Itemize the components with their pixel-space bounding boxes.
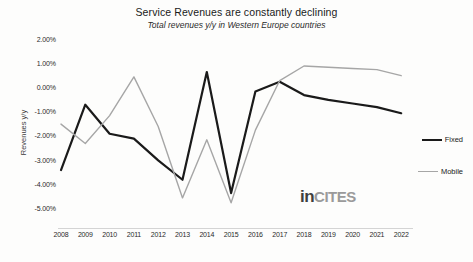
legend-label-fixed: Fixed (445, 135, 463, 144)
chart-page: Service Revenues are constantly declinin… (0, 0, 473, 262)
y-tick-5: -3.00% (14, 157, 56, 164)
watermark-part-2: CITES (314, 188, 356, 205)
legend-item-fixed[interactable]: Fixed (422, 135, 463, 144)
y-tick-4: -2.00% (14, 132, 56, 139)
y-tick-7: -5.00% (14, 205, 56, 212)
watermark-part-1: in (300, 187, 314, 206)
plot-area (0, 0, 473, 262)
series-line-fixed (61, 72, 401, 193)
chart-subtitle: Total revenues y/y in Western Europe cou… (0, 20, 473, 30)
legend-swatch-fixed-icon (422, 139, 442, 141)
y-tick-1: 1.00% (14, 60, 56, 67)
legend-label-mobile: Mobile (441, 167, 463, 176)
y-tick-3: -1.00% (14, 108, 56, 115)
series-line-mobile (61, 66, 401, 203)
chart-title: Service Revenues are constantly declinin… (0, 6, 473, 18)
incites-watermark: inCITES (300, 187, 356, 207)
y-tick-0: 2.00% (14, 36, 56, 43)
legend-item-mobile[interactable]: Mobile (418, 167, 463, 176)
y-tick-2: 0.00% (14, 84, 56, 91)
x-tick-2022: 2022 (386, 231, 416, 238)
x-axis-line (58, 228, 413, 229)
legend-swatch-mobile-icon (418, 171, 438, 172)
y-tick-6: -4.00% (14, 181, 56, 188)
